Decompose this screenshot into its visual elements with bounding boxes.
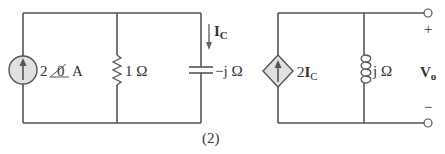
resistor-icon bbox=[113, 55, 121, 85]
terminal-bottom-icon bbox=[424, 119, 432, 127]
inductor-icon bbox=[361, 55, 371, 83]
current-arrow-icon bbox=[206, 24, 212, 50]
figure-caption: (2) bbox=[202, 130, 220, 147]
current-source-icon bbox=[9, 56, 37, 84]
source-angle: 0 bbox=[57, 63, 65, 79]
vo-plus: + bbox=[424, 21, 432, 37]
circuit-diagram: 2 0 A 1 Ω −j Ω IC 2IC j Ω + − Vo (2) bbox=[0, 0, 445, 154]
terminal-top-icon bbox=[424, 9, 432, 17]
source-unit: A bbox=[72, 63, 83, 79]
inductor-label: j Ω bbox=[372, 63, 392, 79]
dependent-source-label: 2IC bbox=[297, 64, 318, 82]
ic-label: IC bbox=[214, 23, 228, 41]
vo-label: Vo bbox=[420, 64, 437, 82]
source-magnitude: 2 bbox=[40, 63, 48, 79]
capacitor-label: −j Ω bbox=[215, 63, 243, 79]
vo-minus: − bbox=[424, 99, 432, 115]
resistor-label: 1 Ω bbox=[125, 63, 147, 79]
dependent-source-icon bbox=[263, 55, 293, 87]
